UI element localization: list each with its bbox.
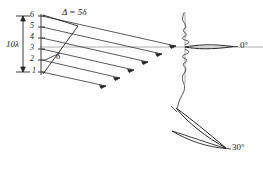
figure-canvas: 10λ Δ = 5δ δ 6 5 4 3 2 1 0° 30° [0,0,263,169]
grating-lobe-base-tick [171,106,177,112]
element-number-3: 3 [30,44,34,52]
element-number-5: 5 [30,22,34,30]
grating-lobe-leader [226,148,231,149]
element-number-2: 2 [30,55,34,63]
grating-lobe-30deg-outer [176,108,226,148]
total-phase-label: Δ = 5δ [62,8,86,17]
array-element-ticks [38,16,45,72]
figure-vector-layer [0,0,263,169]
sidelobe-ripples-lower [177,50,188,109]
grating-lobe-30deg-inner [172,131,226,149]
main-lobe-angle-label: 0° [240,41,248,50]
element-number-6: 6 [30,11,34,19]
element-number-4: 4 [30,33,34,41]
aperture-label: 10λ [6,40,19,49]
sidelobe-ripples-upper [183,13,189,45]
element-delay-label: δ [56,52,60,61]
radiated-ray-bundle [42,16,176,89]
element-number-1: 1 [32,67,36,75]
grating-lobe-angle-label: 30° [232,143,245,152]
